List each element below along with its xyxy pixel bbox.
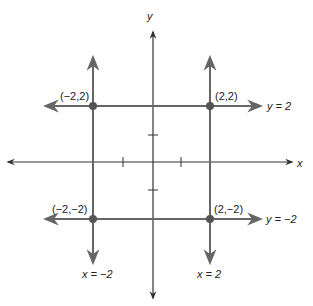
- point-2-2: [206, 102, 214, 110]
- point-label-neg2-neg2: (−2,−2): [52, 203, 87, 215]
- label-x-eq-neg2: x = −2: [81, 268, 113, 280]
- x-axis-label: x: [296, 157, 303, 169]
- label-x-eq-2: x = 2: [196, 268, 221, 280]
- y-axis-label: y: [146, 10, 154, 22]
- point-label-2-2: (2,2): [215, 90, 238, 102]
- coordinate-diagram: y x (−2,2) (2,2) (−2,−2) (2,−2) y = 2 y …: [0, 0, 313, 306]
- point-label-2-neg2: (2,−2): [214, 203, 243, 215]
- point-label-neg2-2: (−2,2): [60, 90, 89, 102]
- label-y-eq-2: y = 2: [266, 100, 291, 112]
- point-neg2-2: [89, 102, 97, 110]
- point-neg2-neg2: [89, 215, 97, 223]
- label-y-eq-neg2: y = −2: [265, 213, 297, 225]
- point-2-neg2: [206, 215, 214, 223]
